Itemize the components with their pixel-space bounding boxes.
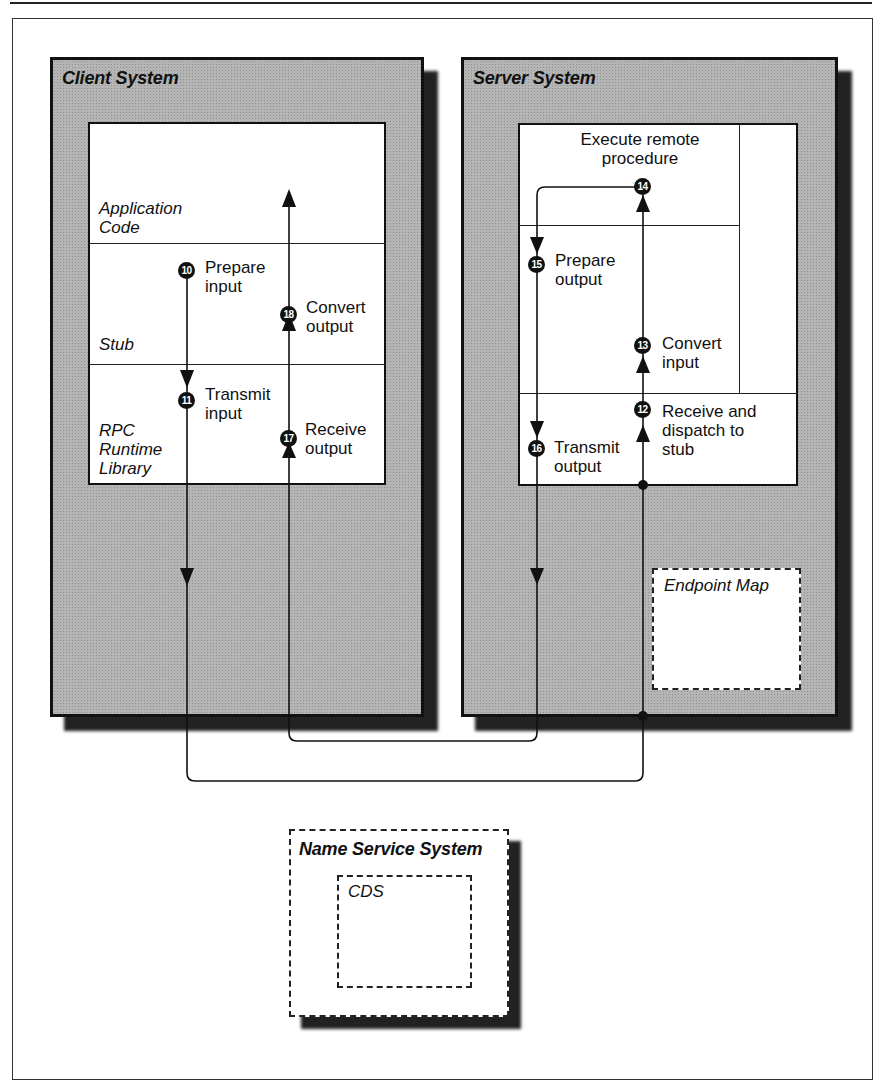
step-11-badge: 11 xyxy=(178,392,195,409)
step-10-label: Prepareinput xyxy=(205,258,265,296)
step-10-badge: 10 xyxy=(178,262,195,279)
step-14-badge: 14 xyxy=(634,178,651,195)
step-13-badge: 13 xyxy=(634,337,651,354)
step-17-badge: 17 xyxy=(280,430,297,447)
step-15-badge: 15 xyxy=(528,256,545,273)
step-12-badge: 12 xyxy=(634,401,651,418)
junction-dot xyxy=(638,711,648,721)
step-12-label: Receive anddispatch tostub xyxy=(662,402,757,459)
step-18-label: Convertoutput xyxy=(306,298,366,336)
step-17-label: Receiveoutput xyxy=(305,420,366,458)
junction-dot xyxy=(638,480,648,490)
step-11-label: Transmitinput xyxy=(205,385,271,423)
step-18-badge: 18 xyxy=(280,306,297,323)
step-15-label: Prepareoutput xyxy=(555,251,615,289)
step-16-label: Transmitoutput xyxy=(554,438,620,476)
flow-lines xyxy=(0,0,882,1087)
step-13-label: Convertinput xyxy=(662,334,722,372)
step-16-badge: 16 xyxy=(528,440,545,457)
